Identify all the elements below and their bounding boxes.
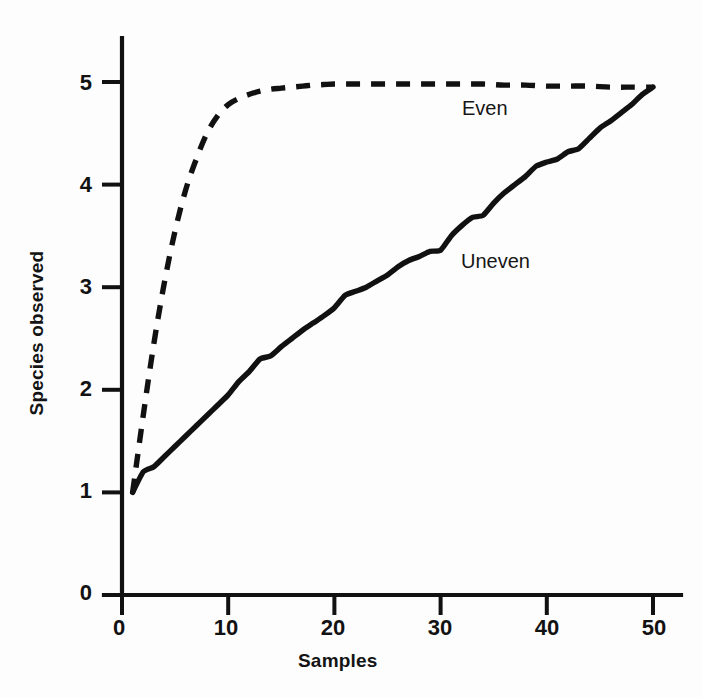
x-tick-label-0: 0 (96, 617, 142, 639)
x-axis-title: Samples (298, 650, 378, 672)
series-line-even (133, 84, 653, 492)
y-tick-label-5: 5 (62, 72, 92, 94)
x-tick-label-40: 40 (524, 617, 570, 639)
species-accumulation-plot (0, 0, 703, 697)
y-axis-title: Species observed (26, 233, 48, 433)
y-tick-label-1: 1 (62, 480, 92, 502)
series-annotation-even: Even (462, 97, 508, 120)
y-tick-label-4: 4 (62, 174, 92, 196)
x-axis-ticks (122, 595, 653, 613)
y-tick-label-0: 0 (62, 582, 92, 604)
x-tick-label-50: 50 (631, 617, 677, 639)
axis-lines (104, 38, 681, 595)
y-tick-label-2: 2 (62, 378, 92, 400)
chart-figure: Species observed Samples 5 4 3 2 1 0 0 1… (0, 0, 703, 697)
x-tick-label-20: 20 (310, 617, 356, 639)
y-tick-label-3: 3 (62, 276, 92, 298)
y-axis-ticks (104, 82, 122, 595)
series-annotation-uneven: Uneven (461, 250, 530, 273)
series-line-uneven (133, 87, 653, 492)
x-tick-label-30: 30 (417, 617, 463, 639)
x-tick-label-10: 10 (203, 617, 249, 639)
